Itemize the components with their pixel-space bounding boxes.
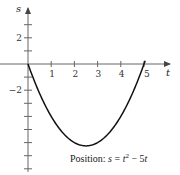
equation-annotation: Position: s = t2 − 5t xyxy=(70,152,148,164)
y-axis-label: s xyxy=(16,3,21,14)
position-chart: 12345 2−2 t s Position: s = t2 − 5t xyxy=(0,0,180,175)
x-tick-label: 2 xyxy=(72,69,78,79)
x-tick-label: 3 xyxy=(96,69,102,79)
x-axis-label: t xyxy=(166,67,171,78)
x-tick-label: 5 xyxy=(144,69,150,79)
y-ticks: 2−2 xyxy=(9,25,32,169)
position-curve xyxy=(28,61,145,146)
y-tick-label: −2 xyxy=(9,85,22,95)
y-tick-label: 2 xyxy=(16,33,22,43)
x-tick-label: 4 xyxy=(119,69,125,79)
x-tick-label: 1 xyxy=(49,69,55,79)
